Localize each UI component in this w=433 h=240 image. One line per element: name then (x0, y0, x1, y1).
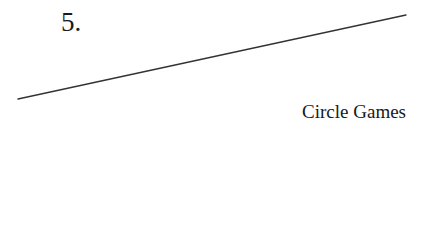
chapter-title: Circle Games (302, 100, 406, 124)
